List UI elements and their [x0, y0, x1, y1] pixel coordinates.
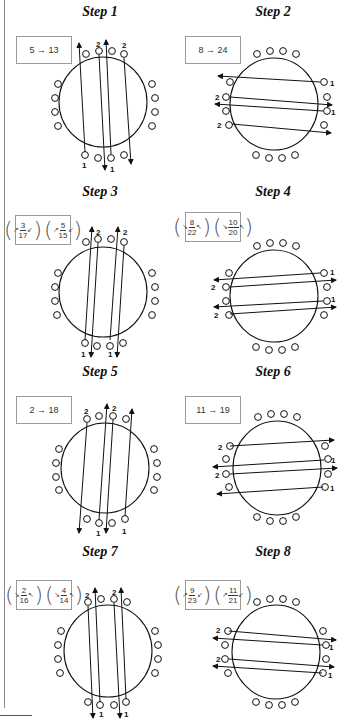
step-1-panel: Step 1 5 → 13 1212: [0, 0, 173, 180]
svg-text:2: 2: [211, 283, 216, 292]
svg-text:1: 1: [110, 165, 115, 174]
svg-text:2: 2: [215, 471, 220, 480]
svg-text:1: 1: [330, 79, 335, 88]
svg-text:2: 2: [218, 443, 223, 452]
svg-text:2: 2: [96, 228, 101, 237]
svg-text:2: 2: [216, 655, 221, 664]
loom-diagram: 2211: [0, 180, 173, 360]
step-3-panel: Step 3 (↗ 317 ↙) (↗ 515 ↙) 2211: [0, 180, 173, 360]
svg-text:2: 2: [112, 588, 117, 597]
loom-diagram: 2211: [0, 360, 173, 540]
pins: [52, 48, 159, 162]
svg-text:1: 1: [82, 161, 87, 170]
svg-text:1: 1: [331, 295, 336, 304]
svg-text:2: 2: [112, 404, 117, 413]
svg-text:2: 2: [217, 121, 222, 130]
step-5-panel: Step 5 2 → 18 2211: [0, 360, 173, 540]
svg-text:2: 2: [214, 311, 219, 320]
loom-diagram: 1212: [0, 0, 173, 180]
svg-text:2: 2: [122, 41, 127, 50]
svg-text:1: 1: [122, 527, 127, 536]
svg-text:1: 1: [108, 350, 113, 359]
svg-text:2: 2: [123, 228, 128, 237]
loom-diagram: 1212: [173, 180, 346, 360]
svg-text:2: 2: [85, 591, 90, 600]
loom-diagram: 2121: [173, 360, 346, 540]
step-4-panel: Step 4 (↘ 822 ↖) (↘ 1020 ↖) 1212: [173, 180, 346, 360]
loom-diagram: 2211: [0, 540, 173, 720]
svg-text:1: 1: [96, 529, 101, 538]
svg-text:2: 2: [84, 407, 89, 416]
svg-text:2: 2: [215, 93, 220, 102]
svg-text:1: 1: [331, 456, 336, 465]
step-2-panel: Step 2 8 → 24 1212: [173, 0, 346, 180]
loom-diagram: 2121: [173, 540, 346, 720]
svg-text:2: 2: [216, 626, 221, 635]
svg-text:1: 1: [331, 108, 336, 117]
svg-text:1: 1: [81, 350, 86, 359]
loom-diagram: 1212: [173, 0, 346, 180]
step-7-panel: Step 7 (↘ 216 ↖) (↘ 414 ↖) 2211: [0, 540, 173, 720]
step-8-panel: Step 8 (↗ 923 ↙) (↗ 1121 ↙) 2121: [173, 540, 346, 720]
svg-text:1: 1: [329, 643, 334, 652]
svg-text:1: 1: [330, 268, 335, 277]
svg-text:1: 1: [99, 710, 104, 719]
svg-text:2: 2: [96, 40, 101, 49]
step-6-panel: Step 6 11 → 19 2121: [173, 360, 346, 540]
svg-text:1: 1: [124, 710, 129, 719]
svg-text:1: 1: [330, 484, 335, 493]
svg-text:1: 1: [328, 671, 333, 680]
